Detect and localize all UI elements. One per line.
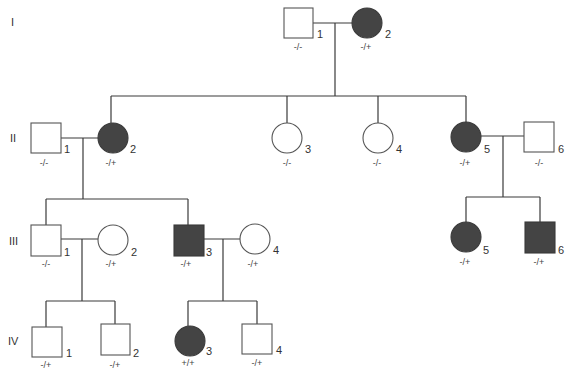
individual-I-1: 1 -/-	[284, 8, 323, 52]
individual-I-2: 2 -/+	[352, 8, 391, 52]
individual-number: 6	[558, 244, 564, 256]
individual-number: 3	[305, 143, 311, 155]
male-unaffected-symbol	[32, 327, 62, 357]
individual-number: 5	[483, 244, 489, 256]
female-unaffected-symbol	[240, 224, 270, 254]
individual-II-3: 3 -/-	[272, 123, 311, 168]
generation-label-3: III	[9, 235, 18, 247]
individual-IV-2: 2 -/+	[101, 324, 139, 370]
male-unaffected-symbol	[101, 324, 130, 355]
individual-IV-1: 1 -/+	[32, 327, 72, 370]
female-affected-symbol	[98, 123, 128, 153]
genotype-label: -/-	[40, 158, 49, 168]
individual-number: 2	[131, 246, 137, 258]
individual-II-6: 6 -/-	[524, 122, 564, 168]
individual-number: 3	[206, 345, 212, 357]
generation-label-1: I	[11, 16, 14, 28]
genotype-label: -/+	[361, 42, 372, 52]
generation-label-2: II	[10, 132, 16, 144]
individual-IV-3: 3 +/+	[175, 326, 212, 368]
individual-III-6: 6 -/+	[525, 222, 564, 267]
genotype-label: -/+	[106, 158, 117, 168]
individual-II-1: 1 -/-	[31, 123, 70, 168]
female-affected-symbol	[451, 122, 481, 152]
female-affected-symbol	[352, 8, 382, 38]
individual-III-4: 4 -/+	[240, 224, 279, 269]
female-affected-symbol	[175, 326, 205, 356]
male-affected-symbol	[525, 222, 555, 253]
genotype-label: -/+	[460, 158, 471, 168]
individual-number: 5	[484, 143, 490, 155]
individual-II-2: 2 -/+	[98, 123, 136, 168]
genotype-label: +/+	[181, 358, 194, 368]
individual-number: 1	[64, 143, 70, 155]
pedigree-chart: I II III IV	[0, 0, 576, 375]
individual-number: 3	[206, 246, 212, 258]
male-unaffected-symbol	[242, 324, 272, 354]
genotype-label: -/+	[41, 360, 52, 370]
genotype-label: -/+	[181, 259, 192, 269]
genotype-label: -/+	[460, 257, 471, 267]
individual-IV-4: 4 -/+	[242, 324, 282, 368]
individual-III-3: 3 -/+	[174, 225, 212, 269]
male-unaffected-symbol	[284, 8, 313, 38]
individual-II-4: 4 -/-	[363, 123, 402, 168]
female-unaffected-symbol	[272, 123, 302, 153]
genotype-label: -/-	[535, 158, 544, 168]
genotype-label: -/+	[252, 358, 263, 368]
genotype-label: -/+	[248, 259, 259, 269]
individual-number: 1	[317, 28, 323, 40]
individual-number: 1	[64, 246, 70, 258]
individual-III-2: 2 -/+	[98, 225, 137, 269]
individual-number: 1	[66, 347, 72, 359]
female-affected-symbol	[451, 222, 481, 252]
individual-number: 4	[273, 244, 279, 256]
female-unaffected-symbol	[98, 225, 128, 255]
genotype-label: -/+	[534, 257, 545, 267]
male-affected-symbol	[174, 225, 204, 256]
male-unaffected-symbol	[524, 122, 554, 152]
pedigree-lines	[46, 23, 540, 327]
generation-label-4: IV	[8, 335, 19, 347]
genotype-label: -/+	[110, 360, 121, 370]
individual-number: 6	[558, 143, 564, 155]
individual-III-5: 5 -/+	[451, 222, 489, 267]
genotype-label: -/-	[373, 158, 382, 168]
individual-number: 2	[130, 143, 136, 155]
individual-number: 4	[276, 344, 282, 356]
individual-III-1: 1 -/-	[31, 225, 70, 269]
individual-number: 2	[385, 28, 391, 40]
genotype-label: -/-	[283, 158, 292, 168]
genotype-label: -/-	[42, 259, 51, 269]
individual-number: 2	[133, 347, 139, 359]
female-unaffected-symbol	[363, 123, 393, 153]
male-unaffected-symbol	[31, 225, 61, 256]
individual-number: 4	[396, 143, 402, 155]
individual-II-5: 5 -/+	[451, 122, 490, 168]
genotype-label: -/-	[294, 42, 303, 52]
male-unaffected-symbol	[31, 123, 61, 153]
genotype-label: -/+	[106, 259, 117, 269]
